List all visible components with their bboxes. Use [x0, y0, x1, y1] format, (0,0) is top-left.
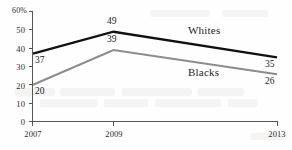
y-tick-label-0: 0 [1, 117, 25, 127]
x-tick-marks [33, 122, 278, 127]
series-line-blacks [33, 50, 277, 85]
data-label-whites-2007: 37 [35, 55, 45, 65]
data-label-whites-2009: 49 [107, 16, 117, 26]
y-tick-marks [29, 12, 33, 122]
chart-canvas [0, 0, 292, 150]
y-tick-label-60: 60% [1, 6, 27, 15]
series-label-whites: Whites [188, 24, 220, 36]
x-tick-label-2009: 2009 [94, 129, 134, 139]
y-tick-label-10: 10 [1, 99, 25, 109]
y-tick-label-50: 50 [1, 25, 25, 35]
y-tick-label-40: 40 [1, 44, 25, 54]
line-chart: 60% 50 40 30 20 10 0 2007 2009 2013 37 4… [0, 0, 292, 150]
data-label-blacks-2013: 26 [265, 76, 275, 86]
data-label-blacks-2009: 39 [107, 34, 117, 44]
y-tick-label-20: 20 [1, 81, 25, 91]
data-label-blacks-2007: 20 [35, 86, 45, 96]
data-label-whites-2013: 35 [265, 59, 275, 69]
x-tick-label-2013: 2013 [257, 129, 292, 139]
x-tick-label-2007: 2007 [13, 129, 53, 139]
series-label-blacks: Blacks [188, 66, 219, 78]
y-tick-label-30: 30 [1, 62, 25, 72]
series-line-whites [33, 32, 277, 58]
